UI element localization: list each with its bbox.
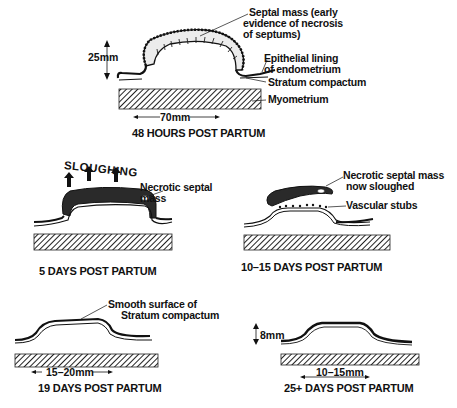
label-stratum-compactum: Stratum compactum bbox=[268, 77, 366, 88]
label-smooth-surface-2: Stratum compactum bbox=[121, 310, 219, 321]
label-septal-mass-3: of septums) bbox=[243, 29, 300, 40]
caption-5-days: 5 DAYS POST PARTUM bbox=[39, 265, 156, 277]
label-myometrium: Myometrium bbox=[268, 94, 328, 105]
dimension-8mm: 8mm bbox=[260, 329, 285, 341]
dimension-10-15mm: 10–15mm bbox=[316, 366, 364, 378]
caption-48-hours: 48 HOURS POST PARTUM bbox=[132, 127, 265, 139]
label-epithelial-2: of endometrium bbox=[264, 64, 341, 75]
label-necrotic-2: mass bbox=[140, 193, 166, 204]
caption-19-days: 19 DAYS POST PARTUM bbox=[38, 382, 161, 394]
myometrium-block bbox=[281, 354, 419, 365]
dimension-70mm: 70mm bbox=[160, 111, 190, 123]
myometrium-block bbox=[244, 235, 390, 250]
myometrium-block bbox=[119, 89, 261, 109]
caption-25-days: 25+ DAYS POST PARTUM bbox=[284, 382, 414, 394]
panel-5d-drawing bbox=[34, 166, 172, 250]
myometrium-block bbox=[34, 234, 172, 250]
caption-10-15-days: 10–15 DAYS POST PARTUM bbox=[241, 261, 382, 273]
dimension-15-20mm: 15–20mm bbox=[46, 366, 94, 378]
label-vascular-stubs: Vascular stubs bbox=[346, 200, 417, 211]
label-necrotic-sloughed-2: now sloughed bbox=[346, 181, 414, 192]
dimension-25mm: 25mm bbox=[88, 51, 118, 63]
